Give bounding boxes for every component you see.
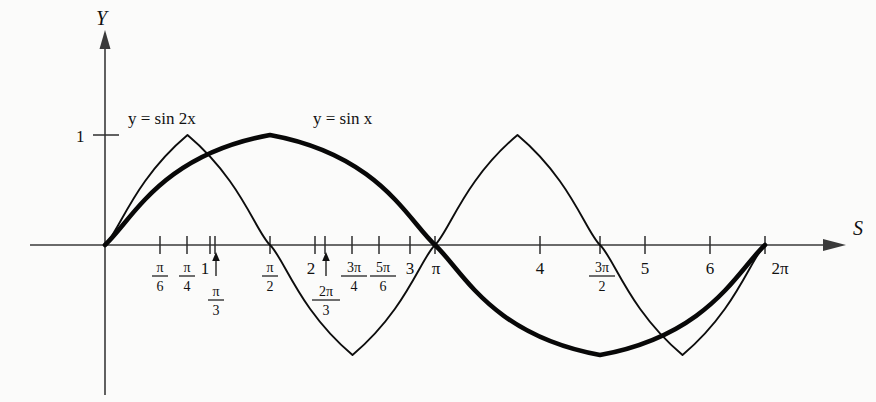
arrow-two-to-two-pi-over-3 [322,252,330,276]
pi-over-6-numerator: π [156,260,163,275]
three-pi-over-4-numerator: 3π [347,260,361,275]
arrow-one-head [212,252,220,261]
label-pi-over-2: π 2 [262,260,278,294]
label-pi: π [432,259,441,278]
three-pi-over-2-denominator: 2 [599,279,606,294]
y-axis-label: Y [96,7,109,29]
five-pi-over-6-numerator: 5π [376,260,390,275]
curve-label-sin-2x: y = sin 2x [128,109,196,128]
graph-canvas: Y S 1 π 6 π 4 1 [0,0,876,402]
curve-label-sin-x: y = sin x [313,109,373,128]
label-two-pi-over-3: 2π 3 [312,284,340,318]
label-three-pi-over-2: 3π 2 [589,260,615,294]
y-tick-one-label: 1 [76,127,85,146]
label-pi-over-3: π 3 [208,284,224,318]
pi-over-4-denominator: 4 [184,279,191,294]
label-three-pi-over-4: 3π 4 [341,260,367,294]
label-one: 1 [201,259,210,278]
pi-over-2-numerator: π [266,260,273,275]
x-axis-arrowhead [823,239,846,251]
pi-over-2-denominator: 2 [267,279,274,294]
pi-over-4-numerator: π [183,260,190,275]
label-three: 3 [406,259,415,278]
pi-over-3-numerator: π [212,284,219,299]
label-four: 4 [536,259,545,278]
label-two-pi: 2π [771,259,789,278]
label-six: 6 [706,259,715,278]
two-pi-over-3-numerator: 2π [319,284,333,299]
label-five: 5 [641,259,650,278]
two-pi-over-3-denominator: 3 [323,303,330,318]
label-pi-over-4: π 4 [179,260,195,294]
sine-graph-figure: Y S 1 π 6 π 4 1 [0,0,876,402]
pi-over-6-denominator: 6 [157,279,164,294]
y-axis-arrowhead [100,30,111,49]
arrow-two-head [322,252,330,261]
three-pi-over-4-denominator: 4 [351,279,358,294]
label-two: 2 [307,259,316,278]
pi-over-3-denominator: 3 [213,303,220,318]
label-pi-over-6: π 6 [152,260,168,294]
arrow-one-to-pi-over-3 [212,252,220,276]
three-pi-over-2-numerator: 3π [595,260,609,275]
label-five-pi-over-6: 5π 6 [370,260,396,294]
x-axis-label: S [853,217,863,239]
axes-group [30,30,846,395]
five-pi-over-6-denominator: 6 [380,279,387,294]
